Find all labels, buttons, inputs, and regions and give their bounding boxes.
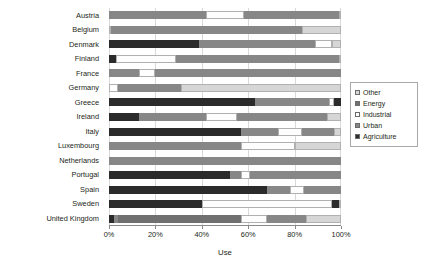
stacked-bar (109, 69, 341, 77)
x-axis-tick-label: 0% (104, 231, 115, 238)
bar-segment-agriculture (334, 98, 341, 106)
bar-segment-industrial (139, 69, 155, 77)
y-axis-label: Finland (0, 52, 104, 67)
stacked-bar (109, 113, 341, 121)
legend-swatch-icon (355, 112, 360, 117)
stacked-bar (109, 142, 341, 150)
y-axis-label: Belgium (0, 23, 104, 38)
bar-segment-industrial (206, 11, 243, 19)
bar-row (109, 182, 341, 197)
stacked-bar (109, 98, 341, 106)
bar-segment-industrial (206, 113, 236, 121)
bar-segment-agriculture (109, 171, 230, 179)
bar-row (109, 110, 341, 125)
y-axis-label: Ireland (0, 110, 104, 125)
bar-row (109, 211, 341, 226)
y-axis-label: Germany (0, 81, 104, 96)
legend-label: Agriculture (363, 133, 396, 140)
legend-item-agriculture[interactable]: Agriculture (355, 131, 414, 142)
bar-segment-industrial (315, 40, 331, 48)
y-axis-label: Italy (0, 124, 104, 139)
bar-segment-urban (230, 171, 242, 179)
y-axis-label: Austria (0, 8, 104, 23)
stacked-bar (109, 186, 341, 194)
x-axis-tick (155, 226, 156, 229)
bar-segment-urban (176, 55, 338, 63)
stacked-bar (109, 55, 341, 63)
bar-segment-industrial (241, 215, 267, 223)
bar-segment-other (302, 26, 341, 34)
legend-item-other[interactable]: Other (355, 87, 414, 98)
stacked-bar (109, 215, 341, 223)
bar-row (109, 124, 341, 139)
bar-row (109, 197, 341, 212)
bar-segment-urban (118, 84, 181, 92)
y-axis-label: Greece (0, 95, 104, 110)
legend-label: Other (363, 89, 381, 96)
bar-segment-industrial (202, 200, 332, 208)
bar-segment-agriculture (109, 200, 202, 208)
bar-segment-agriculture (109, 113, 139, 121)
bar-segment-urban (109, 142, 241, 150)
stacked-bar (109, 157, 341, 165)
x-axis-ticks (109, 226, 341, 230)
legend-swatch-icon (355, 123, 360, 128)
plot-area (109, 8, 341, 226)
bar-segment-other (339, 200, 341, 208)
bar-segment-urban (199, 40, 315, 48)
x-axis-tick (248, 226, 249, 229)
bar-segment-urban (250, 171, 340, 179)
x-axis-tick (295, 226, 296, 229)
bar-row (109, 95, 341, 110)
bar-row (109, 139, 341, 154)
stacked-bar (109, 128, 341, 136)
bar-segment-urban (109, 157, 341, 165)
y-axis-label: Portugal (0, 168, 104, 183)
stacked-bar (109, 26, 341, 34)
legend-swatch-icon (355, 134, 360, 139)
bar-segment-industrial (241, 171, 250, 179)
y-axis-label: Denmark (0, 37, 104, 52)
bar-row (109, 66, 341, 81)
bar-segment-urban (244, 11, 339, 19)
bar-segment-other (181, 84, 341, 92)
bar-segment-urban (237, 113, 327, 121)
stacked-bar (109, 171, 341, 179)
bar-series-container (109, 8, 341, 226)
y-axis-label: United Kingdom (0, 211, 104, 226)
bar-row (109, 81, 341, 96)
x-axis-tick-label: 20% (148, 231, 163, 238)
legend-item-industrial[interactable]: Industrial (355, 109, 414, 120)
bar-segment-agriculture (109, 186, 267, 194)
bar-row (109, 37, 341, 52)
x-axis-tick (341, 226, 342, 229)
stacked-bar (109, 84, 341, 92)
bar-segment-industrial (241, 142, 294, 150)
x-axis-tick (202, 226, 203, 229)
x-axis-tick-label: 60% (241, 231, 256, 238)
legend-item-urban[interactable]: Urban (355, 120, 414, 131)
stacked-bar (109, 11, 341, 19)
bar-segment-urban (139, 113, 206, 121)
legend-swatch-icon (355, 101, 360, 106)
bar-segment-urban (267, 186, 290, 194)
bar-segment-agriculture (109, 55, 116, 63)
bar-segment-agriculture (109, 40, 199, 48)
bar-row (109, 153, 341, 168)
bar-segment-industrial (109, 84, 118, 92)
legend-item-energy[interactable]: Energy (355, 98, 414, 109)
x-axis-tick-label: 80% (287, 231, 302, 238)
bar-segment-other (295, 142, 341, 150)
y-axis-label: Spain (0, 182, 104, 197)
bar-segment-urban (111, 26, 301, 34)
bar-row (109, 23, 341, 38)
bar-segment-agriculture (109, 128, 241, 136)
bar-segment-urban (109, 69, 139, 77)
x-axis-tick (109, 226, 110, 229)
bar-row (109, 52, 341, 67)
bar-segment-urban (255, 98, 329, 106)
y-axis-label: Netherlands (0, 153, 104, 168)
y-axis-category-labels: AustriaBelgiumDenmarkFinlandFranceGerman… (0, 8, 104, 226)
bar-segment-other (332, 40, 341, 48)
chart-legend: OtherEnergyIndustrialUrbanAgriculture (350, 82, 418, 147)
